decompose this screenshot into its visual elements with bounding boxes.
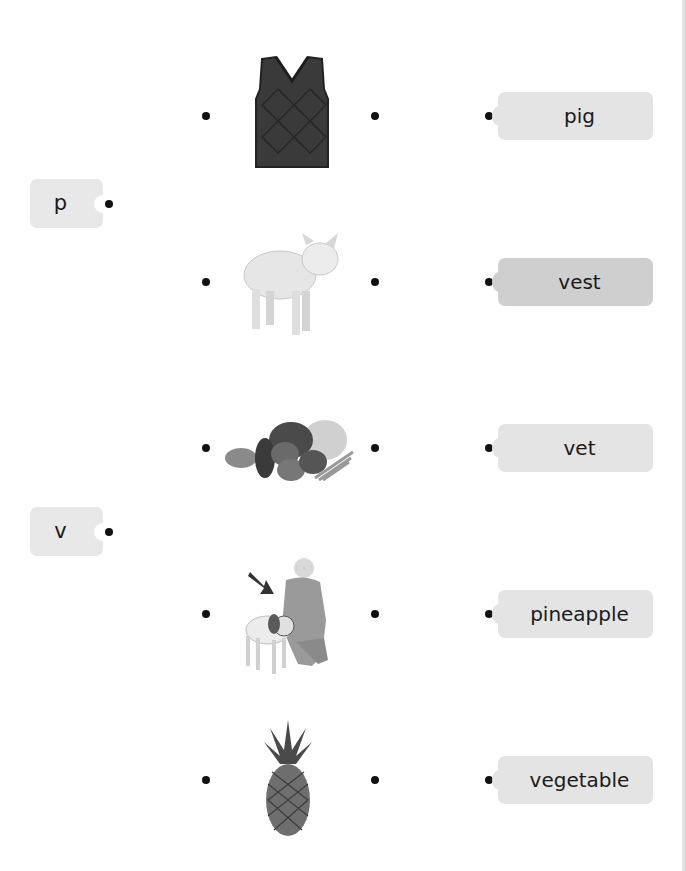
connect-dot-picture-right[interactable]	[371, 112, 379, 120]
pig-image	[240, 233, 342, 337]
connect-dot-picture-left[interactable]	[202, 278, 210, 286]
connect-dot-letter-p[interactable]	[105, 200, 113, 208]
connect-dot-letter-v[interactable]	[105, 528, 113, 536]
connect-dot-picture-right[interactable]	[371, 278, 379, 286]
connect-dot-picture-left[interactable]	[202, 610, 210, 618]
letter-box-v: v	[30, 507, 103, 556]
bump	[492, 106, 506, 126]
bump	[492, 272, 506, 292]
connect-dot-picture-right[interactable]	[371, 444, 379, 452]
connect-dot-picture-left[interactable]	[202, 444, 210, 452]
word-label: vest	[558, 270, 600, 294]
connect-dot-picture-right[interactable]	[371, 610, 379, 618]
letter-label: p	[54, 191, 67, 215]
bump	[492, 438, 506, 458]
bump	[492, 770, 506, 790]
word-label: vegetable	[530, 768, 630, 792]
word-label: pig	[564, 104, 595, 128]
connect-dot-picture-right[interactable]	[371, 776, 379, 784]
connect-dot-picture-left[interactable]	[202, 776, 210, 784]
vegetables-image	[225, 418, 357, 484]
word-box-vest: vest	[498, 258, 653, 306]
vest-image	[254, 55, 330, 168]
word-box-vet: vet	[498, 424, 653, 472]
vet-with-dog-image	[242, 556, 336, 676]
page-gutter	[682, 0, 686, 871]
word-box-vegetable: vegetable	[498, 756, 653, 804]
connect-dot-picture-left[interactable]	[202, 112, 210, 120]
word-label: vet	[564, 436, 596, 460]
pineapple-image	[262, 720, 314, 838]
letter-box-p: p	[30, 179, 103, 228]
letter-label: v	[54, 519, 66, 543]
word-label: pineapple	[530, 602, 629, 626]
word-box-pig: pig	[498, 92, 653, 140]
bump	[492, 604, 506, 624]
word-box-pineapple: pineapple	[498, 590, 653, 638]
